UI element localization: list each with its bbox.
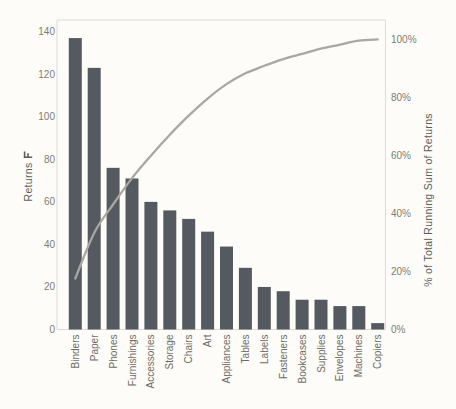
- right-axis-tick-label: 60%: [391, 150, 411, 161]
- bar-fasteners[interactable]: [277, 291, 290, 329]
- bar-storage[interactable]: [163, 210, 176, 329]
- category-label-paper[interactable]: Paper: [89, 334, 100, 361]
- bar-art[interactable]: [201, 232, 214, 330]
- category-label-tables[interactable]: Tables: [240, 335, 251, 364]
- category-label-furnishings[interactable]: Furnishings: [127, 335, 138, 387]
- plot-area: 0204060801001201400%20%40%60%80%100%Bind…: [0, 0, 456, 409]
- category-label-envelopes[interactable]: Envelopes: [334, 335, 345, 382]
- bar-labels[interactable]: [258, 287, 271, 330]
- left-axis-tick-label: 80: [44, 154, 56, 165]
- right-axis-tick-label: 80%: [391, 92, 411, 103]
- bar-furnishings[interactable]: [126, 178, 139, 329]
- left-axis-tick-label: 0: [49, 324, 55, 335]
- right-axis-tick-label: 20%: [391, 266, 411, 277]
- category-label-supplies[interactable]: Supplies: [316, 335, 327, 373]
- left-axis-tick-label: 20: [44, 281, 56, 292]
- category-label-labels[interactable]: Labels: [259, 335, 270, 364]
- bar-copiers[interactable]: [371, 323, 384, 329]
- category-label-appliances[interactable]: Appliances: [221, 335, 232, 384]
- category-label-fasteners[interactable]: Fasteners: [278, 335, 289, 379]
- category-label-binders[interactable]: Binders: [70, 335, 81, 369]
- bar-chairs[interactable]: [182, 219, 195, 330]
- right-axis-tick-label: 100%: [391, 34, 417, 45]
- left-axis-tick-label: 140: [38, 26, 55, 37]
- right-axis-tick-label: 0%: [391, 324, 406, 335]
- left-axis-tick-label: 100: [38, 111, 55, 122]
- left-axis-tick-label: 120: [38, 69, 55, 80]
- bar-tables[interactable]: [239, 268, 252, 330]
- category-label-phones[interactable]: Phones: [108, 335, 119, 369]
- category-label-art[interactable]: Art: [202, 334, 213, 347]
- category-label-bookcases[interactable]: Bookcases: [297, 335, 308, 384]
- category-label-accessories[interactable]: Accessories: [145, 335, 156, 389]
- running-total-line: [75, 39, 377, 278]
- bar-bookcases[interactable]: [296, 300, 309, 330]
- bar-paper[interactable]: [88, 68, 101, 330]
- left-axis-tick-label: 40: [44, 239, 56, 250]
- category-label-copiers[interactable]: Copiers: [372, 335, 383, 369]
- bar-binders[interactable]: [69, 38, 82, 329]
- bar-phones[interactable]: [107, 168, 120, 330]
- bar-machines[interactable]: [352, 306, 365, 329]
- bar-envelopes[interactable]: [333, 306, 346, 329]
- right-axis-tick-label: 40%: [391, 208, 411, 219]
- category-label-chairs[interactable]: Chairs: [183, 335, 194, 364]
- category-label-storage[interactable]: Storage: [164, 334, 175, 369]
- left-axis-tick-label: 60: [44, 196, 56, 207]
- bar-appliances[interactable]: [220, 247, 233, 330]
- bar-accessories[interactable]: [144, 202, 157, 330]
- category-label-machines[interactable]: Machines: [353, 335, 364, 378]
- bar-supplies[interactable]: [315, 300, 328, 330]
- pareto-chart: Returns % of Total Running Sum of Return…: [0, 0, 456, 409]
